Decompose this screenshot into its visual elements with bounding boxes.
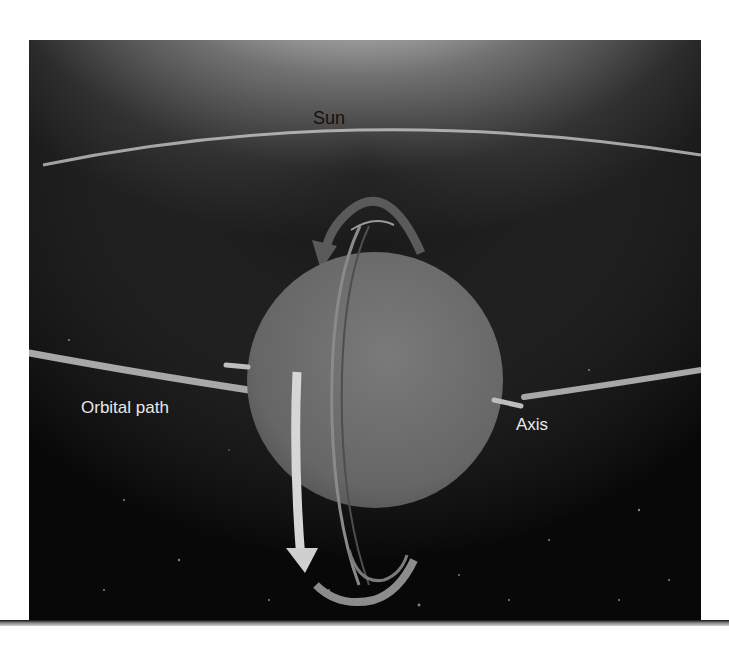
bottom-rule (0, 621, 729, 626)
axis-stub-left (226, 365, 248, 367)
axis-label: Axis (516, 415, 548, 435)
planet (247, 252, 503, 508)
diagram-graphic (29, 40, 701, 620)
orbital-path-label: Orbital path (81, 398, 169, 418)
orbit-diagram: Sun Orbital path Axis (29, 40, 701, 620)
rotation-arrow-front (296, 372, 301, 560)
sun-label: Sun (313, 108, 345, 129)
